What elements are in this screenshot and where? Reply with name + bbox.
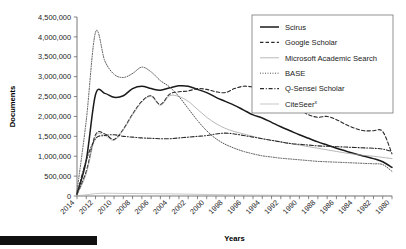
series-line-citeseer [77, 193, 392, 196]
legend-label: Scirus [285, 23, 306, 32]
legend-label: Q-Sensei Scholar [285, 84, 345, 93]
line-chart-canvas: 0500,0001,000,0001,500,0002,000,0002,500… [0, 0, 406, 249]
x-tick-label: 2012 [77, 198, 95, 216]
x-tick-label: 1986 [318, 198, 336, 216]
x-tick-label: 1996 [225, 198, 243, 216]
x-tick-label: 1998 [207, 198, 225, 216]
y-tick-label: 500,000 [44, 172, 71, 181]
legend-label: Google Scholar [285, 38, 338, 47]
y-tick-label: 2,500,000 [38, 92, 71, 101]
x-tick-label: 1984 [336, 198, 354, 216]
y-tick-label: 1,500,000 [38, 132, 71, 141]
x-tick-label: 2002 [170, 198, 188, 216]
y-tick-label: 1,000,000 [38, 152, 71, 161]
legend-box [252, 15, 393, 113]
x-axis-title: Years [224, 234, 244, 243]
page-edge-artifact [0, 236, 97, 245]
y-tick-label: 3,000,000 [38, 72, 71, 81]
x-tick-label: 1992 [262, 198, 280, 216]
x-tick-label: 1980 [373, 198, 391, 216]
series-line-q-sensei-scholar [77, 133, 392, 194]
y-tick-label: 4,000,000 [38, 33, 71, 42]
legend-label: CiteSeerx [285, 99, 318, 108]
chart-figure: 0500,0001,000,0001,500,0002,000,0002,500… [0, 0, 406, 249]
x-tick-label: 2006 [133, 198, 151, 216]
y-tick-label: 2,000,000 [38, 112, 71, 121]
x-tick-label: 1990 [281, 198, 299, 216]
y-tick-label: 3,500,000 [38, 52, 71, 61]
x-tick-label: 1994 [244, 198, 262, 216]
x-tick-label: 2004 [151, 198, 169, 216]
x-tick-label: 1982 [355, 198, 373, 216]
x-tick-label: 2014 [58, 198, 76, 216]
legend-label: BASE [285, 69, 305, 78]
x-tick-label: 1988 [299, 198, 317, 216]
y-tick-label: 4,500,000 [38, 13, 71, 22]
legend-label: Microsoft Academic Search [285, 54, 377, 63]
x-tick-label: 2010 [95, 198, 113, 216]
x-tick-label: 2000 [188, 198, 206, 216]
x-tick-label: 2008 [114, 198, 132, 216]
y-axis-title: Documents [8, 86, 17, 127]
